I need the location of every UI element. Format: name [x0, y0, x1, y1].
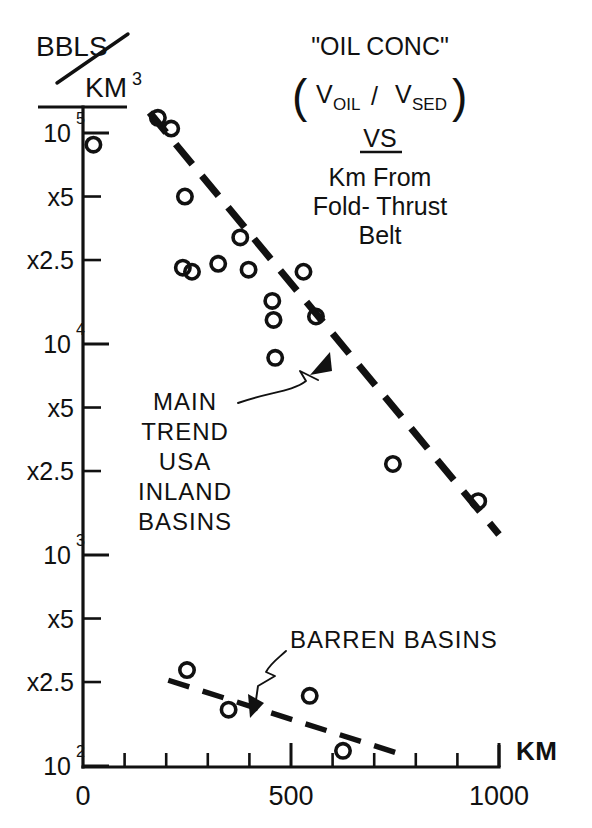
data-point: [178, 189, 192, 203]
data-point: [211, 257, 225, 271]
title-line-belt: Belt: [358, 221, 401, 249]
main-trend-leader-line: [238, 371, 318, 403]
y-tick-label: 10: [43, 752, 71, 780]
title-block: "OIL CONC" ( V OIL / V SED ) VS Km From …: [292, 32, 467, 249]
barren-basins-leader-line: [256, 651, 286, 700]
data-point: [86, 138, 100, 152]
left-paren-icon: (: [292, 70, 308, 122]
y-axis-ticks: 105x5x2.5104x5x2.5103x5x2.5102: [27, 110, 109, 780]
data-point: [266, 313, 280, 327]
y-tick-label: x5: [48, 394, 74, 422]
main-trend-label-line: BASINS: [138, 508, 232, 535]
title-line-ratio: ( V OIL / V SED ): [292, 70, 467, 122]
right-paren-icon: ): [452, 70, 467, 122]
data-point: [268, 351, 282, 365]
barren-basins-label: BARREN BASINS: [290, 626, 498, 653]
chart-canvas: BBLS KM 3 "OIL CONC" ( V OIL / V SED ) V…: [0, 0, 592, 828]
data-point: [386, 457, 400, 471]
x-tick-label: 0: [75, 781, 90, 811]
title-line-fold-thrust: Fold- Thrust: [313, 192, 447, 220]
main-trend-label-line: MAIN: [153, 388, 217, 415]
y-tick-label: x2.5: [27, 246, 74, 274]
y-tick-label-exponent: 4: [76, 321, 85, 338]
ratio-denominator-subscript: SED: [412, 95, 447, 114]
ratio-slash: /: [371, 82, 378, 110]
title-line-vs: VS: [363, 124, 396, 152]
data-point: [265, 294, 279, 308]
annotation-main-trend: MAINTRENDUSAINLANDBASINS: [138, 352, 332, 535]
y-tick-label-exponent: 2: [76, 743, 85, 760]
ratio-numerator-symbol: V: [316, 80, 333, 108]
y-tick-label: x5: [48, 183, 74, 211]
ratio-numerator-subscript: OIL: [333, 95, 360, 114]
data-point: [296, 265, 310, 279]
y-axis-unit-header: BBLS KM 3: [36, 31, 142, 107]
y-tick-label: x5: [48, 605, 74, 633]
y-tick-label: 10: [43, 541, 71, 569]
y-tick-label: 10: [43, 119, 71, 147]
oil-concentration-figure: BBLS KM 3 "OIL CONC" ( V OIL / V SED ) V…: [0, 0, 592, 828]
main-trend-label-line: USA: [159, 448, 211, 475]
data-point: [233, 230, 247, 244]
data-point: [303, 689, 317, 703]
title-line-oil-conc: "OIL CONC": [311, 32, 449, 60]
y-axis-unit-denominator-exponent: 3: [132, 69, 142, 89]
y-tick-label-exponent: 5: [76, 110, 85, 127]
main-trend-label-line: INLAND: [138, 478, 232, 505]
main-trend-label-line: TREND: [141, 418, 229, 445]
y-axis-unit-denominator: KM: [85, 72, 127, 103]
y-tick-label-exponent: 3: [76, 532, 85, 549]
annotation-barren-basins: BARREN BASINS: [248, 626, 498, 718]
ratio-denominator-symbol: V: [395, 80, 412, 108]
data-point: [221, 702, 235, 716]
x-axis-unit-label: KM: [516, 736, 557, 766]
x-tick-label: 1000: [469, 781, 529, 811]
data-point: [336, 744, 350, 758]
data-point: [241, 262, 255, 276]
main-trend-arrowhead-icon: [310, 352, 332, 375]
trend-line-barren-basins-trend: [168, 680, 405, 755]
y-tick-label: x2.5: [27, 457, 74, 485]
data-point: [180, 663, 194, 677]
title-line-km-from: Km From: [329, 163, 432, 191]
y-tick-label: 10: [43, 330, 71, 358]
x-tick-label: 500: [268, 781, 313, 811]
x-axis-ticks: 05001000: [75, 743, 529, 811]
y-tick-label: x2.5: [27, 668, 74, 696]
